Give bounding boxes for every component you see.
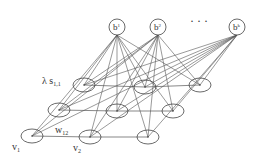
node-center-dot [58,109,60,111]
hidden-to-visible-edge [158,35,200,85]
grid-edge [59,110,117,111]
hidden-to-visible-edge [148,35,237,137]
node-center-dot [116,110,118,112]
node-center-dot [144,86,146,88]
v1-label: v1 [12,141,20,153]
hidden-to-visible-edge [117,35,237,111]
hidden-to-visible-edge [84,35,237,85]
lambda-s-label: λ s1,1 [42,75,61,87]
w12-label: w12 [55,124,68,136]
hidden-to-visible-edge [117,35,173,111]
node-center-dot [89,136,91,138]
node-center-dot [31,135,33,137]
grid-edge [32,136,90,137]
ellipsis-text: · · · [190,14,208,28]
v2-label: v2 [73,142,81,154]
node-center-dot [83,84,85,86]
hidden-to-visible-edge [84,35,117,85]
graphical-model-diagram: b1b2bk · · · λ s1,1 w12 v1 v2 [0,0,261,160]
node-center-dot [172,110,174,112]
hidden-to-visible-edge [145,35,237,87]
diagram-canvas: b1b2bk · · · λ s1,1 w12 v1 v2 [0,0,261,160]
node-center-dot [147,136,149,138]
node-center-dot [199,84,201,86]
